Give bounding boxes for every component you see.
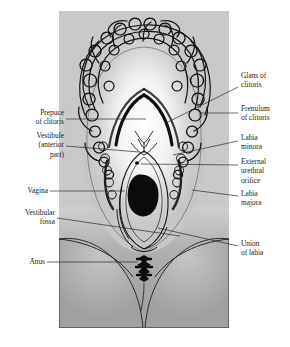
anatomical-figure-panel [59,11,229,328]
label-labia-minora: Labia minora [241,133,290,152]
label-glans-of-clitoris: Glans of clitoris [241,71,290,90]
label-vestibule-anterior-part: Vestibule (anterior part) [4,131,64,159]
anatomy-illustration [59,11,229,328]
label-external-urethral-orifice: External urethral orifice [241,157,290,185]
urethral-orifice-dot [135,161,139,164]
label-union-of-labia: Union of labia [241,239,290,258]
label-vagina: Vagina [4,186,48,195]
label-labia-majora: Labia majora [241,189,290,208]
vaginal-orifice [128,175,159,217]
label-frenulum-of-clitoris: Frenulum of clitoris [241,104,290,123]
label-prepuce-of-clitoris: Prepuce of clitoris [4,108,64,127]
label-vestibular-fossa: Vestibular fossa [4,208,55,227]
diagram-page: Prepuce of clitoris Vestibule (anterior … [0,0,290,347]
label-anus: Anus [4,257,45,266]
